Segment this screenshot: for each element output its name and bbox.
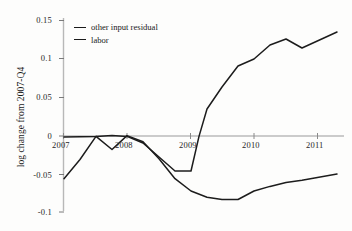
x-tick-label-2009: 2009 bbox=[179, 140, 197, 150]
chart-legend: other input residual labor bbox=[74, 21, 158, 46]
x-tick-label-2007: 2007 bbox=[52, 140, 70, 150]
legend-item-labor: labor bbox=[74, 34, 158, 47]
legend-label-labor: labor bbox=[91, 34, 109, 47]
x-tick-label-2008: 2008 bbox=[115, 140, 133, 150]
series-line-labor bbox=[64, 136, 337, 200]
chart-plot-area bbox=[0, 0, 352, 231]
legend-swatch-icon bbox=[74, 39, 86, 40]
y-tick-label-0-15: 0.15 bbox=[10, 15, 52, 25]
x-tick-label-2011: 2011 bbox=[306, 140, 324, 150]
legend-item-other-input-residual: other input residual bbox=[74, 21, 158, 34]
legend-label-other-input-residual: other input residual bbox=[91, 21, 158, 34]
legend-swatch-icon bbox=[74, 27, 86, 28]
y-axis-title: log change from 2007-Q4 bbox=[16, 42, 26, 192]
x-tick-label-2010: 2010 bbox=[242, 140, 260, 150]
y-tick-label-neg-0-1: -0.1 bbox=[10, 207, 52, 217]
chart-figure: 0.15 0.1 0.05 0 -0.05 -0.1 2007 2008 200… bbox=[0, 0, 352, 231]
series-line-other-input-residual bbox=[64, 32, 337, 171]
